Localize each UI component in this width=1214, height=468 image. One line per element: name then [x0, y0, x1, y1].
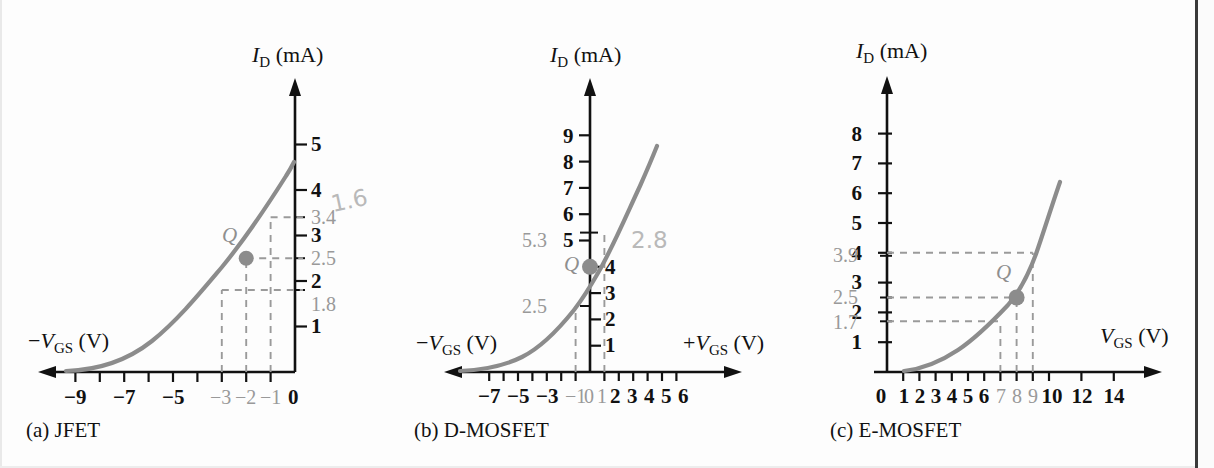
emosfet-xtick-5: 5: [963, 384, 974, 408]
emosfet-ytick-1: 1: [852, 330, 863, 354]
emosfet-ytick-6: 6: [852, 181, 863, 205]
dmosfet-y-axis-arrowhead: [584, 78, 596, 96]
jfet-ytick-2: 2: [311, 269, 322, 293]
emosfet-curve: [904, 182, 1060, 371]
jfet-x-ticks: [75, 372, 270, 382]
jfet-ytick-4: 4: [311, 178, 322, 202]
emosfet-x-axis-title: VGS (V): [1100, 323, 1169, 351]
emosfet-y-axis-title-sub: D: [863, 50, 874, 66]
emosfet-gray-label-3p9: 3.9: [833, 244, 858, 266]
dmosfet-x-axis-title-left: −VGS (V): [416, 330, 497, 358]
jfet-q-label: Q: [222, 223, 237, 247]
emosfet-gray-label-1p7: 1.7: [833, 311, 858, 333]
dmosfet-xtick-4: 4: [644, 384, 655, 408]
jfet-gray-label-2p5: 2.5: [311, 247, 336, 269]
emosfet-xtick-3: 3: [931, 384, 942, 408]
emosfet-ytick-5: 5: [852, 211, 863, 235]
emosfet-x-ticks: [903, 372, 1114, 381]
emosfet-y-axis-title: ID (mA): [855, 38, 927, 66]
dmosfet-y-axis-title-sub: D: [557, 54, 568, 70]
emosfet-xtick-6: 6: [979, 384, 990, 408]
dmosfet-gray-label-2p5: 2.5: [522, 295, 547, 317]
dmosfet-xtick-3: 3: [627, 384, 638, 408]
dmosfet-xtick-1: 1: [597, 385, 607, 407]
dmosfet-ytick-2: 2: [605, 307, 616, 331]
jfet-y-axis-arrowhead: [289, 78, 301, 96]
dmosfet-xtick-6: 6: [678, 384, 689, 408]
jfet-x-axis-arrowhead: [38, 366, 56, 378]
dmosfet-chart-svg: ID (mA): [398, 0, 818, 468]
jfet-y-axis-title-sub: D: [259, 54, 270, 70]
jfet-handwritten-annotation: 1.6: [329, 184, 370, 217]
jfet-chart-svg: ID (mA) 1 2 3 4: [0, 0, 410, 468]
dmosfet-ytick-8: 8: [563, 150, 574, 174]
emosfet-y-ticks: [878, 134, 892, 343]
dmosfet-xtick-2: 2: [610, 384, 621, 408]
panel-emosfet: ID (mA) 1 2: [812, 0, 1202, 468]
jfet-y-axis-title-unit: (mA): [270, 42, 323, 67]
emosfet-xtick-0: 0: [876, 384, 887, 408]
dmosfet-q-point: [582, 259, 598, 275]
emosfet-caption: (c) E-MOSFET: [830, 418, 961, 442]
dmosfet-ytick-6: 6: [563, 202, 574, 226]
emosfet-xtick-2: 2: [915, 384, 926, 408]
emosfet-xtick-9: 9: [1028, 385, 1038, 407]
emosfet-y-axis-arrowhead: [881, 76, 893, 94]
jfet-gray-label-1p8: 1.8: [311, 293, 336, 315]
dmosfet-ytick-9: 9: [563, 124, 574, 148]
dmosfet-x-axis-title-right: +VGS (V): [683, 330, 764, 358]
dmosfet-gray-label-5p3: 5.3: [522, 229, 547, 251]
dmosfet-xtick-0: 0: [584, 385, 594, 407]
panel-jfet: ID (mA) 1 2 3 4: [0, 0, 410, 468]
emosfet-chart-svg: ID (mA) 1 2: [812, 0, 1202, 468]
dmosfet-xtick-neg7: −7: [478, 384, 500, 408]
jfet-x-axis-title: −VGS (V): [28, 328, 109, 356]
dmosfet-ytick-1: 1: [605, 333, 616, 357]
emosfet-y-axis-title-unit: (mA): [874, 38, 927, 63]
panel-dmosfet: ID (mA): [398, 0, 818, 468]
dmosfet-y-axis-title: ID (mA): [549, 42, 621, 70]
emosfet-gray-label-2p5: 2.5: [833, 286, 858, 308]
jfet-y-ticks: [295, 145, 307, 327]
emosfet-xtick-8: 8: [1012, 385, 1022, 407]
jfet-caption: (a) JFET: [26, 418, 100, 442]
emosfet-xtick-4: 4: [947, 384, 958, 408]
dmosfet-ytick-7: 7: [563, 176, 574, 200]
emosfet-xtick-7: 7: [996, 385, 1006, 407]
dmosfet-x-axis-arrowhead-right: [724, 366, 742, 378]
jfet-xtick-neg3: −3: [210, 386, 231, 408]
emosfet-q-point: [1009, 290, 1025, 306]
jfet-xtick-neg5: −5: [162, 385, 184, 409]
emosfet-ytick-7: 7: [852, 151, 863, 175]
dmosfet-ytick-3: 3: [605, 281, 616, 305]
emosfet-xtick-14: 14: [1104, 384, 1126, 408]
emosfet-x-axis-arrowhead: [1144, 366, 1162, 378]
emosfet-xtick-1: 1: [899, 384, 910, 408]
emosfet-ytick-8: 8: [852, 122, 863, 146]
jfet-xtick-neg2: −2: [235, 386, 256, 408]
emosfet-q-label: Q: [996, 260, 1011, 284]
jfet-xtick-neg7: −7: [113, 385, 135, 409]
jfet-y-axis-title: ID (mA): [251, 42, 323, 70]
dmosfet-xtick-neg5: −5: [507, 384, 529, 408]
dmosfet-q-label: Q: [564, 252, 579, 276]
figure-canvas: ID (mA) 1 2 3 4: [0, 0, 1214, 468]
dmosfet-xtick-neg3: −3: [536, 384, 558, 408]
dmosfet-xtick-5: 5: [661, 384, 672, 408]
dmosfet-handwritten-annotation: 2.8: [631, 227, 668, 253]
jfet-ytick-5: 5: [311, 132, 322, 156]
dmosfet-ytick-5: 5: [563, 228, 574, 252]
dmosfet-y-axis-title-unit: (mA): [568, 42, 621, 67]
jfet-ytick-1: 1: [311, 314, 322, 338]
jfet-xtick-neg9: −9: [64, 385, 86, 409]
jfet-q-point: [239, 251, 254, 266]
emosfet-xtick-10: 10: [1042, 384, 1063, 408]
dmosfet-x-ticks: [489, 372, 676, 381]
jfet-xtick-neg1: −1: [260, 386, 281, 408]
emosfet-xtick-12: 12: [1072, 384, 1093, 408]
jfet-xtick-0: 0: [288, 385, 299, 409]
dmosfet-caption: (b) D-MOSFET: [414, 418, 549, 442]
